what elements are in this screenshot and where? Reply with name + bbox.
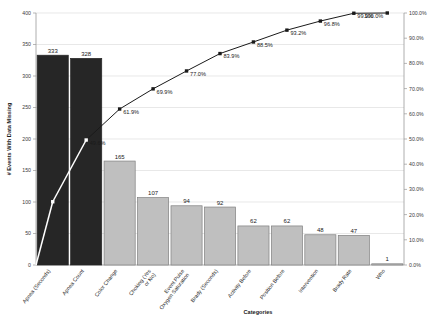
cumulative-marker-0 (51, 200, 54, 203)
bar-label-3: 107 (148, 190, 159, 196)
svg-text:Apnea (Seconds): Apnea (Seconds) (21, 268, 51, 305)
category-label-6: Activity Before (226, 268, 252, 299)
x-axis-title: Categories (244, 309, 273, 315)
category-label-8: Intervention (297, 268, 319, 294)
bar-5 (204, 207, 235, 265)
bar-label-8: 48 (317, 227, 324, 233)
svg-text:Brady (Seconds): Brady (Seconds) (189, 268, 219, 303)
svg-text:200: 200 (22, 136, 31, 142)
category-label-1: Apnea Count (61, 268, 85, 297)
chart-canvas: 050100150200250300350400 0.0%10.0%20.0%3… (0, 0, 448, 322)
bar-label-2: 165 (115, 154, 126, 160)
svg-text:350: 350 (22, 41, 31, 47)
svg-text:90.0%: 90.0% (409, 35, 424, 41)
cumulative-label-4: 77.0% (190, 71, 206, 77)
bar-label-4: 94 (183, 198, 190, 204)
cumulative-marker-2 (118, 107, 121, 110)
svg-text:Intervention: Intervention (297, 268, 319, 294)
bar-label-6: 62 (250, 218, 257, 224)
svg-text:50: 50 (25, 230, 31, 236)
cumulative-label-5: 83.9% (224, 53, 240, 59)
svg-text:400: 400 (22, 10, 31, 16)
pareto-chart: 050100150200250300350400 0.0%10.0%20.0%3… (0, 0, 448, 322)
svg-text:10.0%: 10.0% (409, 237, 424, 243)
svg-text:250: 250 (22, 104, 31, 110)
svg-text:20.0%: 20.0% (409, 212, 424, 218)
svg-text:100.0%: 100.0% (409, 10, 427, 16)
cumulative-marker-10 (386, 11, 389, 14)
cumulative-marker-4 (185, 69, 188, 72)
svg-text:80.0%: 80.0% (409, 60, 424, 66)
cumulative-marker-3 (151, 87, 154, 90)
category-label-2: Color Change (93, 268, 118, 298)
cumulative-label-10: 100.0% (364, 13, 383, 19)
svg-text:Who: Who (374, 268, 386, 280)
svg-text:Brady Rate: Brady Rate (331, 268, 352, 293)
cumulative-marker-9 (352, 12, 355, 15)
category-label-10: Who (374, 268, 386, 280)
svg-text:0.0%: 0.0% (409, 262, 421, 268)
svg-text:60.0%: 60.0% (409, 111, 424, 117)
category-label-3: Choking (Yesor No) (128, 268, 157, 301)
svg-text:Apnea Count: Apnea Count (61, 268, 85, 297)
cumulative-marker-6 (252, 40, 255, 43)
bar-3 (138, 198, 169, 265)
category-label-7: Position Before (258, 268, 285, 301)
svg-text:50.0%: 50.0% (409, 136, 424, 142)
bar-9 (338, 235, 369, 265)
cumulative-marker-5 (218, 52, 221, 55)
svg-text:150: 150 (22, 167, 31, 173)
bar-label-0: 333 (48, 48, 59, 54)
bar-4 (171, 206, 202, 265)
bar-label-7: 62 (284, 218, 291, 224)
y-axis-title: # Events With Data Missing (6, 102, 12, 175)
y-axis-left-ticks: 050100150200250300350400 (22, 10, 36, 268)
svg-text:100: 100 (22, 199, 31, 205)
bar-label-1: 328 (81, 51, 92, 57)
cumulative-label-2: 61.9% (123, 109, 139, 115)
category-label-4: Event PulseOxygen Saturation (153, 268, 190, 311)
bar-1 (71, 58, 102, 265)
svg-text:Position Before: Position Before (258, 268, 285, 301)
svg-text:40.0%: 40.0% (409, 161, 424, 167)
bar-2 (104, 161, 135, 265)
cumulative-label-7: 93.2% (290, 30, 306, 36)
bar-7 (271, 226, 302, 265)
bar-8 (305, 235, 336, 265)
x-axis-category-labels: Apnea (Seconds)Apnea CountColor ChangeCh… (21, 268, 386, 311)
cumulative-marker-7 (285, 28, 288, 31)
bar-0 (37, 55, 68, 265)
bar-10 (372, 264, 403, 265)
cumulative-label-8: 96.8% (324, 21, 340, 27)
cumulative-marker-8 (319, 19, 322, 22)
category-label-5: Brady (Seconds) (189, 268, 219, 303)
svg-text:30.0%: 30.0% (409, 186, 424, 192)
svg-text:300: 300 (22, 73, 31, 79)
svg-text:Activity Before: Activity Before (226, 268, 252, 299)
category-label-9: Brady Rate (331, 268, 352, 293)
cumulative-marker-1 (84, 138, 87, 141)
bar-label-5: 92 (217, 200, 224, 206)
cumulative-label-6: 88.5% (257, 42, 273, 48)
cumulative-label-3: 69.9% (157, 89, 173, 95)
svg-text:70.0%: 70.0% (409, 86, 424, 92)
cumulative-label-1: 49.6% (90, 140, 106, 146)
svg-text:Color Change: Color Change (93, 268, 118, 298)
bar-label-9: 47 (350, 228, 357, 234)
svg-text:0: 0 (28, 262, 31, 268)
category-label-0: Apnea (Seconds) (21, 268, 51, 305)
y-axis-right-ticks: 0.0%10.0%20.0%30.0%40.0%50.0%60.0%70.0%8… (404, 10, 427, 268)
bar-6 (238, 226, 269, 265)
